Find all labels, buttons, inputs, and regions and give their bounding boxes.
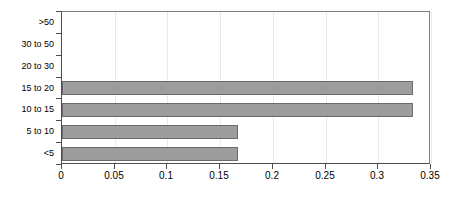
x-axis-tick-label: 0.1 (159, 170, 173, 182)
x-axis-tick-label: 0.35 (420, 170, 439, 182)
x-axis-tick (219, 164, 220, 169)
y-axis-tick-label: 5 to 10 (0, 126, 54, 136)
bar-band (62, 143, 429, 165)
x-axis-tick (430, 164, 431, 169)
gridline (431, 12, 432, 163)
x-axis-tick (114, 164, 115, 169)
x-axis-tick (61, 164, 62, 169)
x-axis-tick-label: 0.15 (209, 170, 228, 182)
x-axis-ticks (61, 164, 430, 169)
x-axis-tick (325, 164, 326, 169)
bar-chart: <55 to 1010 to 1515 to 2020 to 3030 to 5… (0, 0, 451, 198)
x-axis-tick (272, 164, 273, 169)
y-axis-tick-label: 20 to 30 (0, 61, 54, 71)
x-axis-tick (377, 164, 378, 169)
bars-layer (62, 12, 429, 163)
y-axis-tick-label: 10 to 15 (0, 104, 54, 114)
y-axis-tick-label: 30 to 50 (0, 39, 54, 49)
bar (62, 103, 413, 117)
x-axis-tick-label: 0.2 (265, 170, 279, 182)
bar-band (62, 12, 429, 34)
x-axis-tick-label: 0 (58, 170, 64, 182)
y-axis-tick-label: >50 (0, 17, 54, 27)
y-axis-tick-label: 15 to 20 (0, 83, 54, 93)
x-axis-tick-label: 0.25 (315, 170, 334, 182)
y-axis-tick-label: <5 (0, 148, 54, 158)
bar-band (62, 56, 429, 78)
plot-area (61, 11, 430, 164)
bar (62, 147, 238, 161)
bar-band (62, 99, 429, 121)
x-axis-tick-label: 0.05 (104, 170, 123, 182)
bar (62, 125, 238, 139)
bar-band (62, 121, 429, 143)
bar-band (62, 34, 429, 56)
y-axis-labels: <55 to 1010 to 1515 to 2020 to 3030 to 5… (0, 11, 54, 164)
x-axis-labels: 00.050.10.150.20.250.30.35 (0, 170, 451, 184)
x-axis-tick (166, 164, 167, 169)
bar (62, 81, 413, 95)
bar-band (62, 78, 429, 100)
x-axis-tick-label: 0.3 (370, 170, 384, 182)
